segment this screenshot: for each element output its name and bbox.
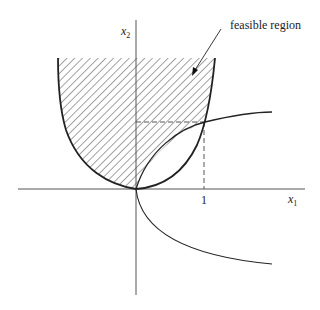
annotation-feasible-region: feasible region <box>230 18 301 33</box>
y-axis-label-sub: 2 <box>126 31 130 40</box>
x-axis-label-sub: 1 <box>293 199 297 208</box>
y-axis-label: x2 <box>121 24 130 40</box>
diagram-canvas: feasible region x2 1 x1 <box>0 0 320 310</box>
x-axis-label: x1 <box>288 192 297 208</box>
diagram-svg <box>0 0 320 310</box>
x-tick-label-1: 1 <box>201 193 207 208</box>
